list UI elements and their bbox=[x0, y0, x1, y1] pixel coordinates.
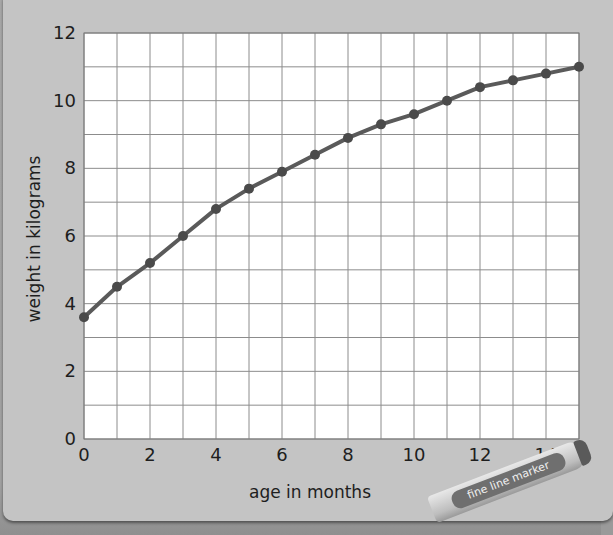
data-point bbox=[79, 312, 89, 322]
x-tick-label: 8 bbox=[342, 444, 353, 465]
data-point bbox=[409, 109, 419, 119]
x-tick-label: 4 bbox=[210, 444, 221, 465]
data-point bbox=[574, 62, 584, 72]
y-tick-label: 2 bbox=[65, 360, 76, 381]
x-tick-label: 2 bbox=[144, 444, 155, 465]
x-tick-label: 6 bbox=[276, 444, 287, 465]
y-axis-label: weight in kilograms bbox=[24, 155, 44, 322]
y-tick-label: 4 bbox=[65, 293, 76, 314]
data-point bbox=[442, 96, 452, 106]
plot-area bbox=[79, 33, 584, 439]
data-point bbox=[475, 82, 485, 92]
y-axis-ticks: 024681012 bbox=[53, 22, 76, 449]
y-tick-label: 10 bbox=[53, 90, 76, 111]
data-point bbox=[343, 133, 353, 143]
data-point bbox=[211, 204, 221, 214]
x-axis-label: age in months bbox=[249, 482, 371, 502]
data-point bbox=[508, 75, 518, 85]
x-tick-label: 0 bbox=[78, 444, 89, 465]
y-tick-label: 6 bbox=[65, 225, 76, 246]
data-point bbox=[178, 231, 188, 241]
x-axis-ticks: 02468101214 bbox=[78, 444, 557, 465]
data-point bbox=[376, 119, 386, 129]
data-point bbox=[310, 150, 320, 160]
y-tick-label: 0 bbox=[65, 428, 76, 449]
data-point bbox=[112, 282, 122, 292]
y-tick-label: 8 bbox=[65, 157, 76, 178]
data-point bbox=[244, 184, 254, 194]
data-point bbox=[277, 167, 287, 177]
data-point bbox=[145, 258, 155, 268]
data-point bbox=[541, 69, 551, 79]
y-tick-label: 12 bbox=[53, 22, 76, 43]
x-tick-label: 12 bbox=[469, 444, 492, 465]
x-tick-label: 10 bbox=[403, 444, 426, 465]
